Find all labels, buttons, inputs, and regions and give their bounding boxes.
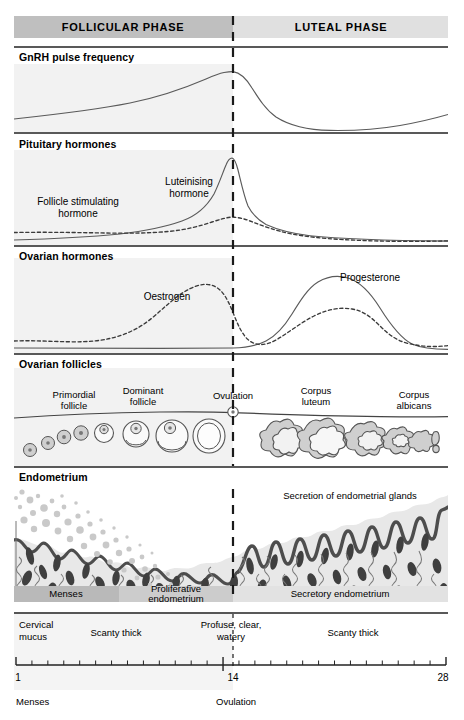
- axis-label-end: 28: [437, 672, 448, 683]
- ovarian-panel-tint: [14, 258, 233, 353]
- footer-label-menses: Menses: [16, 697, 49, 708]
- mucus-value-follicular: Scanty thick: [90, 628, 141, 639]
- band-label-secretory: Secretory endometrium: [291, 589, 390, 600]
- band-label-menses: Menses: [49, 589, 82, 600]
- gnrh-panel-tint: [14, 64, 233, 132]
- progesterone-label: Progesterone: [340, 272, 400, 283]
- section-label-follicles: Ovarian follicles: [19, 359, 102, 371]
- section-label-ovarian: Ovarian hormones: [19, 251, 113, 263]
- footer-label-ovulation: Ovulation: [216, 697, 256, 708]
- oestrogen-label: Oestrogen: [144, 291, 191, 302]
- band-label-proliferative-l2: endometrium: [148, 594, 203, 605]
- luteal-phase-label: LUTEAL PHASE: [295, 21, 388, 33]
- section-label-endometrium: Endometrium: [19, 472, 88, 484]
- follicle-stage-primordial-line2: follicle: [61, 401, 87, 412]
- fsh-label-line2: hormone: [58, 208, 97, 219]
- follicle-stage-corpus-luteum-line2: luteum: [302, 397, 331, 408]
- corpus-luteum-series: [260, 418, 440, 458]
- follicle-stage-ovulation: Ovulation: [213, 391, 253, 402]
- follicles-panel-tint: [14, 368, 233, 466]
- cervical-mucus-title-line2: mucus: [19, 632, 47, 643]
- axis-label-start: 1: [15, 672, 21, 683]
- lh-label-line2: hormone: [169, 188, 208, 199]
- mucus-value-ovulatory-l1: Profuse, clear,: [201, 620, 262, 631]
- follicle-stage-dominant-line2: follicle: [130, 397, 156, 408]
- mucus-value-luteal: Scanty thick: [327, 628, 378, 639]
- cervical-mucus-title-line1: Cervical: [19, 620, 53, 631]
- axis-label-mid: 14: [227, 672, 238, 683]
- follicle-stage-corpus-albicans-line2: albicans: [397, 401, 432, 412]
- fsh-label-line1: Follicle stimulating: [37, 196, 119, 207]
- lh-label-line1: Luteinising: [165, 176, 213, 187]
- secretion-note: Secretion of endometrial glands: [283, 491, 417, 502]
- menstrual-cycle-figure: FOLLICULAR PHASE LUTEAL PHASE GnRH pulse…: [0, 0, 464, 720]
- follicular-phase-label: FOLLICULAR PHASE: [62, 21, 184, 33]
- mucus-value-ovulatory-l2: watery: [217, 632, 245, 643]
- section-label-gnrh: GnRH pulse frequency: [19, 52, 134, 64]
- graafian-follicle: [193, 419, 225, 453]
- section-label-pituitary: Pituitary hormones: [19, 139, 116, 151]
